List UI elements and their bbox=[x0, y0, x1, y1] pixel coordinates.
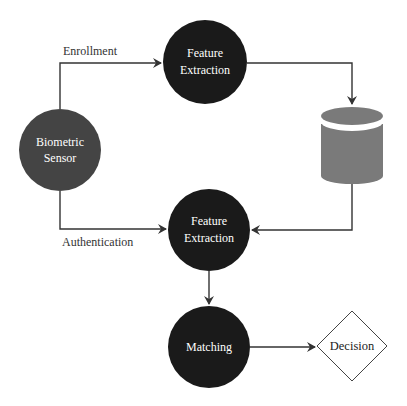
sensor-label-line2: Sensor bbox=[44, 151, 77, 165]
enrollment-label: Enrollment bbox=[63, 44, 118, 58]
edge-database-to-feature bbox=[252, 183, 352, 230]
node-biometric-sensor: Biometric Sensor bbox=[19, 109, 101, 191]
sensor-label-line1: Biometric bbox=[36, 135, 84, 149]
node-matching: Matching bbox=[168, 306, 250, 388]
feature-enroll-line1: Feature bbox=[187, 46, 223, 60]
edge-authentication bbox=[60, 191, 166, 229]
node-feature-extraction-auth: Feature Extraction bbox=[168, 189, 250, 271]
edge-enrollment bbox=[60, 63, 161, 109]
node-decision: Decision bbox=[317, 311, 387, 381]
matching-label: Matching bbox=[186, 340, 232, 354]
feature-auth-line2: Extraction bbox=[184, 231, 234, 245]
authentication-label: Authentication bbox=[62, 235, 133, 249]
feature-enroll-line2: Extraction bbox=[180, 63, 230, 77]
node-feature-extraction-enroll: Feature Extraction bbox=[163, 20, 247, 104]
feature-auth-line1: Feature bbox=[191, 214, 227, 228]
edge-feature-to-database bbox=[247, 63, 352, 104]
database-cylinder-icon bbox=[321, 107, 383, 184]
decision-label: Decision bbox=[330, 339, 375, 353]
biometric-flow-diagram: Enrollment Authentication Biometric Sens… bbox=[0, 0, 407, 406]
